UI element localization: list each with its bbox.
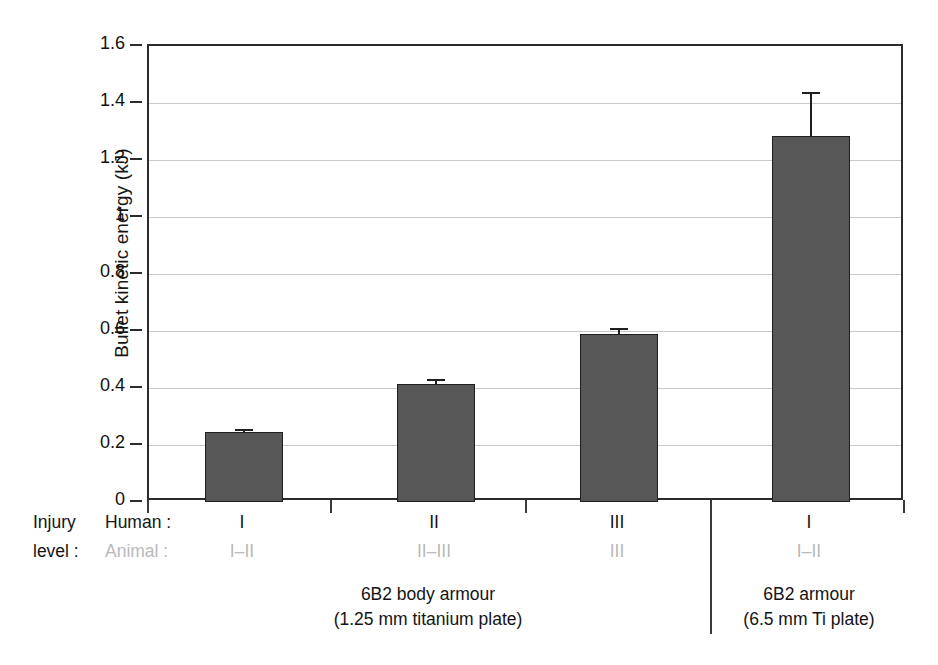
plot-area [147, 44, 903, 500]
y-axis-tick-mark [130, 101, 142, 103]
y-axis-tick-label: 0.6 [100, 318, 125, 339]
y-axis-tick-mark [130, 158, 142, 160]
animal-injury-level-value: III [610, 541, 625, 562]
animal-injury-level-value: I–II [797, 541, 821, 562]
human-injury-level-value: I [240, 512, 245, 533]
y-axis-tick-label: 1.4 [100, 90, 125, 111]
bar-chart-figure: Bullet kinetic energy (kJ) 00.20.40.60.8… [0, 0, 938, 665]
y-axis-tick-mark [130, 386, 142, 388]
bar [205, 432, 283, 502]
animal-injury-level-value: II–III [417, 541, 451, 562]
injury-level-label-line2: level : [33, 541, 79, 562]
y-axis-tick-label: 1 [115, 204, 125, 225]
y-axis-tick-label: 0.2 [100, 432, 125, 453]
injury-level-label-line1: Injury [33, 512, 76, 533]
group-caption-line2: (6.5 mm Ti plate) [743, 607, 874, 632]
y-axis-tick-mark [130, 272, 142, 274]
y-axis-tick-mark [130, 44, 142, 46]
y-axis-tick-mark [130, 215, 142, 217]
bar [772, 136, 850, 502]
human-injury-level-value: I [807, 512, 812, 533]
y-axis-tick-label: 1.2 [100, 147, 125, 168]
group-caption-line2: (1.25 mm titanium plate) [334, 607, 523, 632]
human-row-label: Human : [105, 512, 171, 533]
group-caption: 6B2 armour(6.5 mm Ti plate) [743, 582, 874, 632]
human-injury-level-value: II [429, 512, 439, 533]
gridline [149, 103, 901, 104]
x-axis-label-block: Injury level : Human : Animal : II–IIIII… [0, 500, 938, 665]
animal-row-label: Animal : [105, 541, 168, 562]
animal-injury-level-value: I–II [230, 541, 254, 562]
y-axis-tick-mark [130, 329, 142, 331]
y-axis-tick-label: 0.8 [100, 261, 125, 282]
y-axis-tick-label: 1.6 [100, 33, 125, 54]
error-bar-cap [610, 328, 628, 330]
group-caption: 6B2 body armour(1.25 mm titanium plate) [334, 582, 523, 632]
error-bar-cap [235, 429, 253, 431]
group-caption-line1: 6B2 armour [743, 582, 874, 607]
error-bar-cap [802, 92, 820, 94]
bar [580, 334, 658, 502]
group-caption-line1: 6B2 body armour [334, 582, 523, 607]
human-injury-level-value: III [610, 512, 625, 533]
bar [397, 384, 475, 502]
y-axis-tick-label: 0.4 [100, 375, 125, 396]
error-bar-line [810, 92, 812, 136]
error-bar-cap [427, 379, 445, 381]
y-axis-tick-mark [130, 443, 142, 445]
